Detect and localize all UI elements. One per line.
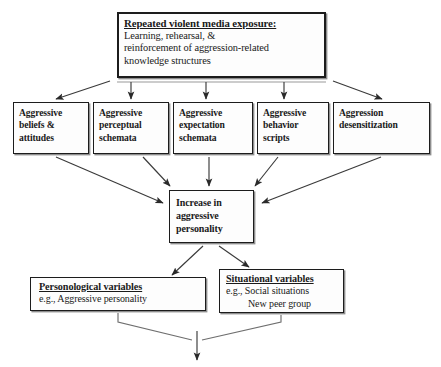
edge-personological-merge bbox=[118, 313, 192, 340]
node-expectation-line2: expectation bbox=[179, 119, 249, 131]
node-beliefs-line2: beliefs & bbox=[19, 119, 85, 131]
node-aggression-desensitization[interactable]: Aggression desensitization bbox=[333, 102, 430, 154]
node-increase-in-aggressive-personality[interactable]: Increase in aggressive personality bbox=[169, 190, 254, 243]
node-perceptual-line2: perceptual bbox=[99, 119, 165, 131]
edge-increase-personological bbox=[172, 246, 203, 275]
diagram-canvas: Repeated violent media exposure: Learnin… bbox=[0, 0, 441, 367]
edge-situational-merge bbox=[202, 315, 281, 340]
node-aggressive-behavior-scripts[interactable]: Aggressive behavior scripts bbox=[257, 102, 329, 154]
node-repeated-violent-media-exposure[interactable]: Repeated violent media exposure: Learnin… bbox=[117, 12, 326, 78]
node-increase-line3: personality bbox=[176, 222, 249, 235]
edge-perceptual-increase bbox=[143, 157, 170, 186]
cropped-caption-remnant bbox=[74, 0, 364, 5]
node-personological-line1: e.g., Aggressive personality bbox=[39, 293, 201, 305]
node-desensitization-line1: Aggression bbox=[339, 107, 426, 119]
node-personological-heading: Personological variables bbox=[39, 281, 201, 293]
node-aggressive-expectation-schemata[interactable]: Aggressive expectation schemata bbox=[173, 102, 253, 154]
node-aggressive-beliefs-attitudes[interactable]: Aggressive beliefs & attitudes bbox=[13, 102, 89, 154]
node-scripts-line1: Aggressive bbox=[263, 107, 325, 119]
node-expectation-line1: Aggressive bbox=[179, 107, 249, 119]
node-scripts-line2: behavior bbox=[263, 119, 325, 131]
node-personological-variables[interactable]: Personological variables e.g., Aggressiv… bbox=[30, 277, 206, 311]
node-situational-variables[interactable]: Situational variables e.g., Social situa… bbox=[219, 269, 344, 313]
edge-exposure-desensitization bbox=[333, 81, 382, 99]
node-situational-line1: e.g., Social situations bbox=[226, 285, 339, 297]
node-increase-line2: aggressive bbox=[176, 209, 249, 222]
node-situational-line2: New peer group bbox=[226, 298, 339, 310]
node-exposure-line1: Learning, rehearsal, & bbox=[124, 30, 320, 43]
node-exposure-line3: knowledge structures bbox=[124, 55, 320, 68]
node-expectation-line3: schemata bbox=[179, 132, 249, 144]
node-desensitization-line2: desensitization bbox=[339, 119, 426, 131]
node-situational-heading: Situational variables bbox=[226, 273, 339, 285]
edge-exposure-beliefs bbox=[56, 81, 110, 99]
node-aggressive-perceptual-schemata[interactable]: Aggressive perceptual schemata bbox=[93, 102, 169, 154]
node-beliefs-line1: Aggressive bbox=[19, 107, 85, 119]
edge-beliefs-increase bbox=[56, 157, 163, 203]
node-increase-line1: Increase in bbox=[176, 196, 249, 209]
edge-increase-situational bbox=[219, 246, 249, 267]
node-perceptual-line3: schemata bbox=[99, 132, 165, 144]
edge-desensitization-increase bbox=[262, 157, 381, 203]
node-beliefs-line3: attitudes bbox=[19, 132, 85, 144]
node-perceptual-line1: Aggressive bbox=[99, 107, 165, 119]
node-exposure-heading: Repeated violent media exposure: bbox=[124, 17, 320, 30]
edge-scripts-increase bbox=[255, 157, 278, 186]
node-exposure-line2: reinforcement of aggression-related bbox=[124, 42, 320, 55]
node-scripts-line3: scripts bbox=[263, 132, 325, 144]
